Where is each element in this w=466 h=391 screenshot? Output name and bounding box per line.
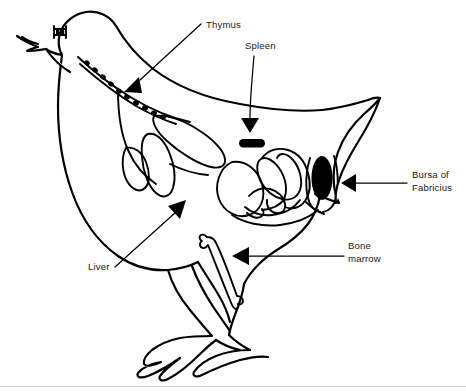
diagram-page: Thymus Spleen Bursa of Fabricius Bone ma…	[0, 0, 466, 391]
leader-bursa	[341, 174, 407, 192]
label-spleen: Spleen	[245, 40, 276, 51]
label-liver: Liver	[88, 261, 110, 272]
label-bone-marrow-line1: Bone	[348, 240, 371, 251]
leader-spleen	[241, 56, 259, 133]
leader-bone-marrow	[232, 247, 344, 265]
chicken-legs-and-feet	[137, 262, 268, 380]
label-bursa-line1: Bursa of	[412, 169, 449, 180]
label-bone-marrow-line2: marrow	[348, 253, 381, 264]
label-bursa-line2: Fabricius	[412, 182, 452, 193]
label-bone-marrow: Bone marrow	[348, 240, 381, 264]
label-bursa-of-fabricius: Bursa of Fabricius	[412, 169, 452, 193]
chicken-immune-system-diagram: Thymus Spleen Bursa of Fabricius Bone ma…	[0, 0, 466, 391]
chicken-body-outline	[17, 12, 380, 284]
label-thymus: Thymus	[206, 19, 241, 30]
spleen	[239, 139, 265, 148]
